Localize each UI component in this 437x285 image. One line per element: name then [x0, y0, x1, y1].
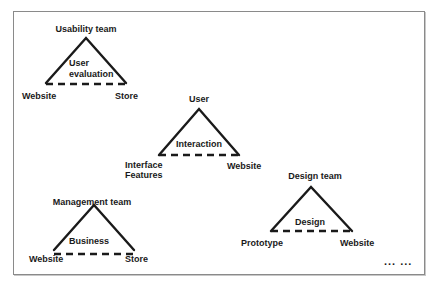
- triangle-usability-center-label-line1: User: [69, 58, 89, 69]
- triangle-user-left-label-line2: Features: [125, 170, 163, 181]
- triangle-usability-left-label: Website: [22, 91, 56, 102]
- continuation-ellipsis: ... ...: [384, 256, 412, 267]
- triangle-design-apex-label: Design team: [288, 171, 342, 182]
- triangle-design-center-label: Design: [295, 217, 325, 228]
- triangle-management-center-label: Business: [69, 236, 109, 247]
- triangle-usability-right-label: Store: [115, 91, 138, 102]
- triangle-user-apex-label: User: [189, 94, 209, 105]
- triangle-management-apex-label: Management team: [53, 197, 132, 208]
- triangle-design-left-label: Prototype: [241, 238, 283, 249]
- triangle-management-right-label: Store: [125, 254, 148, 265]
- triangle-usability-apex-label: Usability team: [55, 24, 116, 35]
- triangle-design-right-label: Website: [340, 238, 374, 249]
- triangle-user-center-label: Interaction: [176, 139, 222, 150]
- triangle-user-right-label: Website: [227, 161, 261, 172]
- triangle-usability-center-label-line2: evaluation: [69, 69, 114, 80]
- triangle-management-left-label: Website: [29, 254, 63, 265]
